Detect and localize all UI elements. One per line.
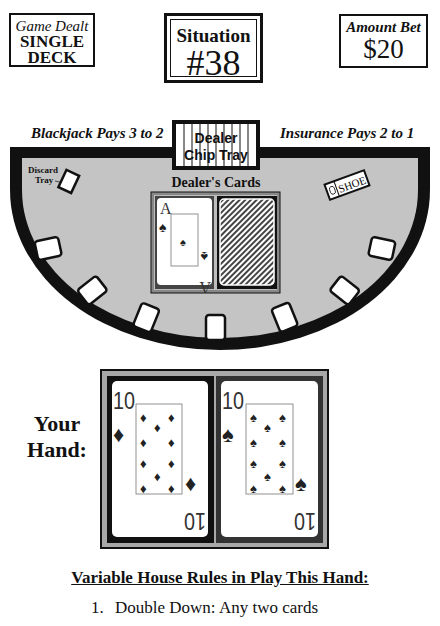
svg-text:♦: ♦ — [168, 435, 175, 450]
svg-text:♦: ♦ — [140, 410, 147, 425]
house-rule-number: 1. — [91, 598, 115, 618]
house-rules-title: Variable House Rules in Play This Hand: — [0, 568, 440, 588]
blackjack-payout-label: Blackjack Pays 3 to 2 — [31, 125, 163, 142]
spade-icon: ♠ — [295, 471, 307, 496]
svg-text:♦: ♦ — [154, 420, 161, 435]
dealer-card-ace-of-spades: A ♠ ♠ ♠ A — [155, 196, 214, 296]
spade-icon: ♠ — [222, 422, 234, 447]
player-card-ten-of-diamonds: 10 ♦ ♦♦ ♦ ♦♦ ♦♦ ♦ ♦♦ ♦ 10 — [107, 376, 214, 543]
spade-icon: ♠ — [159, 220, 167, 235]
dealer-card-rank-bottom: A — [199, 279, 211, 296]
svg-text:♠: ♠ — [279, 456, 286, 471]
betting-spot[interactable] — [206, 315, 225, 340]
dealer-cards-area: A ♠ ♠ ♠ A — [151, 192, 280, 296]
dealer-cards-label: Dealer's Cards — [171, 175, 261, 190]
dealer-chip-tray: Dealer Chip Tray — [172, 120, 260, 170]
svg-text:♠: ♠ — [279, 481, 286, 496]
discard-tray-label-line2: Tray — [35, 175, 54, 185]
player-card-2-rank-bottom: 10 — [294, 508, 316, 535]
svg-text:♠: ♠ — [250, 456, 257, 471]
house-rule-item: 1.Double Down: Any two cards — [91, 598, 318, 618]
amount-bet-value: $20 — [341, 35, 426, 63]
svg-text:♦: ♦ — [168, 456, 175, 471]
svg-text:♠: ♠ — [250, 410, 257, 425]
house-rule-text: Double Down: Any two cards — [115, 598, 318, 617]
svg-text:♠: ♠ — [279, 435, 286, 450]
insurance-payout-label: Insurance Pays 2 to 1 — [280, 125, 414, 142]
svg-text:♠: ♠ — [264, 469, 271, 484]
spade-icon: ♠ — [200, 249, 208, 264]
player-card-2-rank-top: 10 — [222, 387, 244, 414]
discard-tray-label-line1: Discard — [28, 165, 58, 175]
svg-text:♦: ♦ — [168, 410, 175, 425]
svg-text:♠: ♠ — [250, 435, 257, 450]
player-hand: 10 ♦ ♦♦ ♦ ♦♦ ♦♦ ♦ ♦♦ ♦ 10 10 ♠ ♠♠ ♠ ♠♠ ♠… — [100, 369, 330, 555]
svg-text:♠: ♠ — [264, 420, 271, 435]
your-hand-label-line1: Your — [22, 411, 92, 437]
situation-inner-frame: Situation #38 — [170, 19, 257, 77]
betting-spot[interactable] — [368, 237, 395, 261]
blackjack-table: Dealer Chip Tray Dealer's Cards Discard … — [0, 110, 440, 370]
dealer-card-rank-top: A — [160, 200, 172, 217]
svg-text:♠: ♠ — [250, 481, 257, 496]
game-dealt-value-line2: DECK — [11, 50, 93, 66]
player-card-1-rank-top: 10 — [113, 387, 135, 414]
player-card-ten-of-spades: 10 ♠ ♠♠ ♠ ♠♠ ♠♠ ♠ ♠♠ ♠ 10 — [216, 376, 323, 543]
amount-bet-label: Amount Bet — [341, 20, 426, 35]
your-hand-label: Your Hand: — [22, 411, 92, 463]
dealer-hole-card — [217, 196, 277, 289]
spade-icon: ♠ — [180, 236, 186, 248]
chip-tray-label-line1: Dealer — [195, 130, 238, 146]
your-hand-label-line2: Hand: — [22, 437, 92, 463]
situation-box: Situation #38 — [164, 13, 263, 83]
svg-text:♦: ♦ — [168, 481, 175, 496]
diamond-icon: ♦ — [113, 422, 124, 447]
betting-spot[interactable] — [34, 237, 61, 261]
svg-text:♦: ♦ — [154, 469, 161, 484]
svg-text:♠: ♠ — [279, 410, 286, 425]
situation-number: #38 — [171, 46, 256, 80]
game-dealt-box: Game Dealt SINGLE DECK — [9, 13, 95, 67]
player-card-1-rank-bottom: 10 — [184, 508, 206, 535]
svg-text:♦: ♦ — [140, 481, 147, 496]
amount-bet-box: Amount Bet $20 — [339, 14, 428, 68]
diamond-icon: ♦ — [185, 471, 196, 496]
svg-text:♦: ♦ — [140, 435, 147, 450]
svg-text:♦: ♦ — [140, 456, 147, 471]
chip-tray-label-line2: Chip Tray — [184, 147, 248, 163]
